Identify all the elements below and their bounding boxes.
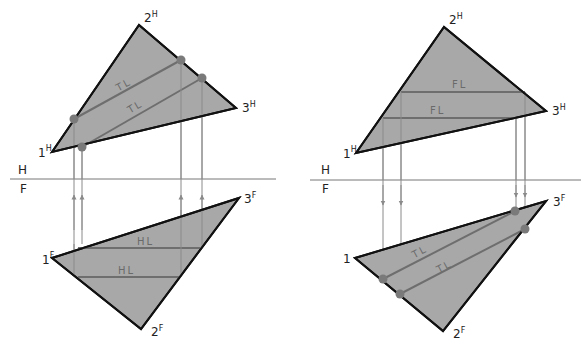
left-front-line-label-1: HL bbox=[137, 236, 154, 247]
left-front-plane bbox=[52, 198, 239, 329]
vertex-label-2f: 2F bbox=[151, 324, 164, 339]
left-top-view: TL TL 1H 2H 3H bbox=[38, 10, 256, 179]
vertex-label-1f: 1 bbox=[343, 252, 351, 266]
vertex-label-2h: 2H bbox=[144, 10, 158, 25]
right-top-plane bbox=[356, 27, 546, 153]
left-fold-label-f: F bbox=[20, 182, 27, 196]
point-marker bbox=[78, 143, 87, 152]
vertex-label-2f: 2F bbox=[453, 326, 466, 341]
point-marker bbox=[70, 115, 79, 124]
left-figure: H F TL TL bbox=[10, 10, 276, 339]
right-front-view: TL TL 1 2F 3F bbox=[343, 194, 566, 341]
orthographic-projection-diagram: H F TL TL bbox=[0, 0, 583, 352]
vertex-label-1f: 1F bbox=[42, 251, 55, 267]
vertex-label-1h: 1H bbox=[343, 145, 357, 161]
point-marker bbox=[198, 74, 207, 83]
right-top-line-label-2: FL bbox=[430, 105, 445, 116]
point-marker bbox=[396, 290, 405, 299]
vertex-label-2h: 2H bbox=[449, 12, 463, 27]
point-marker bbox=[379, 275, 388, 284]
point-marker bbox=[521, 225, 530, 234]
left-top-plane bbox=[52, 25, 236, 152]
vertex-label-1h: 1H bbox=[38, 144, 52, 160]
point-marker bbox=[177, 56, 186, 65]
left-fold-label-h: H bbox=[18, 163, 27, 177]
vertex-label-3h: 3H bbox=[242, 100, 256, 115]
right-fold-label-h: H bbox=[321, 163, 330, 177]
vertex-label-3f: 3F bbox=[244, 191, 257, 206]
right-top-view: FL FL 1H 2H 3H bbox=[343, 12, 566, 180]
vertex-label-3h: 3H bbox=[552, 103, 566, 118]
point-marker bbox=[511, 207, 520, 216]
left-front-line-label-2: HL bbox=[118, 265, 135, 276]
right-fold-label-f: F bbox=[322, 182, 329, 196]
right-top-line-label-1: FL bbox=[452, 79, 467, 90]
right-figure: H F FL FL 1H 2H 3H bbox=[310, 12, 581, 341]
vertex-label-3f: 3F bbox=[553, 194, 566, 209]
